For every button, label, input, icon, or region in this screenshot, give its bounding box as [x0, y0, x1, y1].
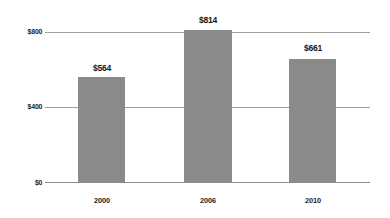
value-label-2006: $814: [185, 14, 232, 25]
x-axis-label-2010: 2010: [289, 196, 337, 206]
value-label-2000: $564: [79, 62, 126, 73]
y-axis-tick-label: $400: [5, 102, 45, 111]
y-axis-tick-0: $0: [0, 178, 45, 187]
y-axis-tick-label: $800: [5, 27, 45, 36]
x-axis-label-2006: 2006: [184, 196, 232, 206]
bar-2010[interactable]: [289, 59, 336, 183]
bar-chart: $800 $400 $0 $564 $814 $661 2000 2006 20…: [0, 0, 390, 218]
bar-2000[interactable]: [78, 77, 125, 183]
value-label-2010: $661: [290, 42, 337, 53]
y-axis-tick-400: $400: [0, 102, 45, 111]
y-axis-tick-label: $0: [5, 178, 45, 187]
bar-2006[interactable]: [184, 30, 232, 183]
x-axis-label-2000: 2000: [78, 196, 126, 206]
plot-area: [45, 32, 370, 183]
y-axis-tick-800: $800: [0, 27, 45, 36]
